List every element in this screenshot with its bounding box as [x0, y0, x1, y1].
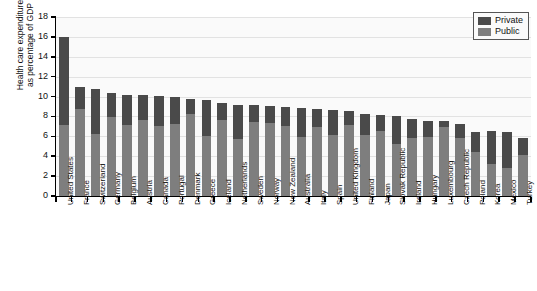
x-tick-mark	[483, 197, 485, 202]
bar-segment-private	[392, 116, 402, 144]
bar-segment-private	[312, 109, 322, 128]
y-tick-mark	[51, 36, 56, 38]
x-tick-mark	[340, 197, 342, 202]
x-tick-mark	[55, 197, 57, 202]
x-tick-mark	[356, 197, 358, 202]
x-tick-mark	[198, 197, 200, 202]
x-tick-mark	[229, 197, 231, 202]
y-tick-label: 18	[30, 11, 48, 21]
y-tick-label: 16	[30, 31, 48, 41]
bar-segment-private	[202, 100, 212, 137]
y-tick-mark	[51, 175, 56, 177]
legend-item: Private	[478, 16, 523, 25]
x-axis-labels: United StatesFranceSwitzerlandGermanyBel…	[55, 197, 530, 291]
x-tick-mark	[87, 197, 89, 202]
bar-segment-private	[328, 110, 338, 135]
y-tick-mark	[51, 16, 56, 18]
bar-segment-private	[281, 107, 291, 127]
x-tick-mark	[71, 197, 73, 202]
x-tick-mark	[182, 197, 184, 202]
bar-segment-private	[91, 89, 101, 135]
x-tick-mark	[261, 197, 263, 202]
bar-segment-private	[518, 138, 528, 155]
y-tick-label: 6	[30, 130, 48, 140]
gridline	[56, 77, 531, 78]
x-tick-mark	[118, 197, 120, 202]
y-tick-mark	[51, 155, 56, 157]
x-tick-mark	[150, 197, 152, 202]
chart-legend: PrivatePublic	[473, 12, 529, 40]
bar-segment-private	[423, 121, 433, 137]
gridline	[56, 37, 531, 38]
legend-swatch	[478, 28, 491, 36]
bar-segment-private	[186, 99, 196, 115]
y-tick-label: 12	[30, 71, 48, 81]
x-tick-mark	[277, 197, 279, 202]
y-tick-label: 8	[30, 110, 48, 120]
x-tick-mark	[498, 197, 500, 202]
bar-segment-private	[455, 124, 465, 138]
y-tick-mark	[51, 76, 56, 78]
bar-segment-private	[75, 87, 85, 110]
health-expenditure-bar-chart: Health care expenditure as percentage of…	[0, 0, 537, 291]
bar-segment-public	[312, 127, 322, 196]
bar-segment-private	[376, 115, 386, 131]
x-tick-mark	[372, 197, 374, 202]
y-tick-label: 2	[30, 170, 48, 180]
legend-label: Private	[495, 16, 523, 25]
x-tick-mark	[530, 197, 532, 202]
bar-segment-private	[344, 111, 354, 125]
x-tick-mark	[134, 197, 136, 202]
bar-segment-private	[154, 96, 164, 127]
y-tick-label: 0	[30, 190, 48, 200]
x-tick-mark	[514, 197, 516, 202]
gridline	[56, 17, 531, 18]
bar-segment-private	[59, 37, 69, 126]
bar-segment-private	[471, 132, 481, 152]
y-tick-label: 10	[30, 91, 48, 101]
x-tick-mark	[451, 197, 453, 202]
y-tick-label: 14	[30, 51, 48, 61]
x-tick-mark	[103, 197, 105, 202]
x-tick-mark	[213, 197, 215, 202]
bar-segment-private	[265, 106, 275, 124]
bar-segment-private	[249, 105, 259, 123]
x-tick-mark	[293, 197, 295, 202]
legend-item: Public	[478, 27, 523, 36]
bar-segment-private	[407, 119, 417, 138]
x-tick-mark	[403, 197, 405, 202]
bar-segment-private	[233, 105, 243, 140]
y-tick-mark	[51, 96, 56, 98]
y-tick-mark	[51, 136, 56, 138]
x-tick-mark	[467, 197, 469, 202]
bar-segment-private	[170, 97, 180, 125]
x-tick-mark	[419, 197, 421, 202]
x-tick-mark	[324, 197, 326, 202]
x-tick-mark	[435, 197, 437, 202]
x-tick-mark	[166, 197, 168, 202]
legend-swatch	[478, 17, 491, 25]
y-tick-mark	[51, 116, 56, 118]
y-tick-mark	[51, 56, 56, 58]
bar-segment-private	[107, 93, 117, 118]
bar-segment-private	[360, 114, 370, 135]
bar-segment-private	[217, 103, 227, 121]
bar-segment-private	[122, 95, 132, 126]
y-tick-label: 4	[30, 150, 48, 160]
legend-label: Public	[495, 27, 520, 36]
bar-segment-private	[138, 95, 148, 121]
bar-segment-private	[487, 131, 497, 164]
bar	[328, 110, 338, 196]
bar-segment-private	[502, 132, 512, 168]
bar	[312, 109, 322, 197]
x-tick-mark	[388, 197, 390, 202]
x-tick-mark	[308, 197, 310, 202]
x-tick-mark	[245, 197, 247, 202]
bar-segment-private	[297, 108, 307, 138]
gridline	[56, 57, 531, 58]
